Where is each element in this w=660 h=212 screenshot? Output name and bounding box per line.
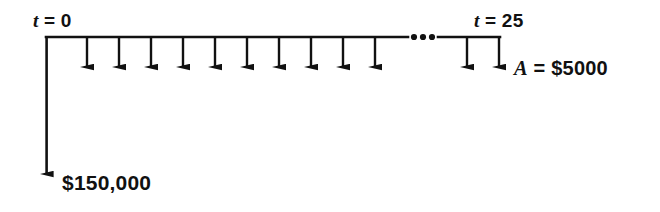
start-time-variable: t	[33, 10, 39, 31]
end-time-label: t = 25	[474, 11, 523, 30]
start-time-value: 0	[61, 10, 72, 31]
payment-arrows-group	[87, 37, 499, 67]
end-time-value: 25	[502, 10, 524, 31]
payment-value: $5000	[551, 57, 608, 79]
payment-variable: A	[514, 57, 528, 79]
end-time-equals: =	[485, 10, 496, 31]
start-time-label: t = 0	[33, 11, 72, 30]
cash-flow-timeline-diagram: t = 0 t = 25 A = $5000 $150,000	[0, 0, 660, 212]
payment-equals: =	[534, 57, 546, 79]
ellipsis-icon	[411, 34, 435, 40]
start-time-equals: =	[44, 10, 55, 31]
end-time-variable: t	[474, 10, 480, 31]
principal-amount-label: $150,000	[62, 172, 151, 193]
payment-amount-label: A = $5000	[514, 58, 608, 78]
